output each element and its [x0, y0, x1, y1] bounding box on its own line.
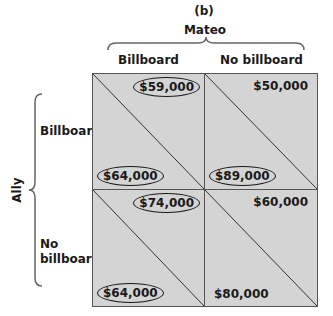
mateo-payoff: $74,000 — [133, 193, 200, 213]
cell-no-billboard-billboard: $74,000 $64,000 — [93, 190, 205, 306]
mateo-payoff: $60,000 — [248, 193, 313, 211]
ally-payoff: $64,000 — [97, 283, 164, 303]
row-player-label: Ally — [10, 170, 24, 210]
column-header-no-billboard: No billboard — [205, 53, 318, 67]
column-player-label: Mateo — [92, 23, 318, 37]
ally-payoff: $89,000 — [209, 166, 276, 186]
mateo-payoff: $59,000 — [133, 77, 200, 97]
cell-billboard-billboard: $59,000 $64,000 — [93, 74, 205, 190]
mateo-payoff: $50,000 — [248, 77, 313, 95]
panel-label: (b) — [120, 4, 288, 18]
ally-payoff: $80,000 — [209, 285, 274, 303]
column-header-billboard: Billboard — [92, 53, 205, 67]
ally-payoff: $64,000 — [97, 166, 164, 186]
column-brace — [106, 36, 306, 52]
cell-billboard-no-billboard: $50,000 $89,000 — [205, 74, 317, 190]
payoff-matrix: $59,000 $64,000 $50,000 $89,000 $74,000 … — [92, 73, 318, 307]
cell-no-billboard-no-billboard: $60,000 $80,000 — [205, 190, 317, 306]
